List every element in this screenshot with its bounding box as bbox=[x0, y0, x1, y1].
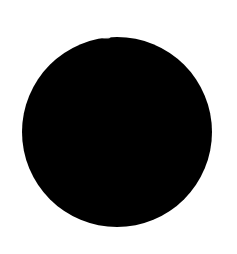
black-disc bbox=[22, 37, 212, 227]
rim-notch bbox=[102, 36, 111, 39]
image-canvas: Black filled circle on white background … bbox=[0, 0, 237, 254]
figure-svg bbox=[0, 0, 237, 254]
